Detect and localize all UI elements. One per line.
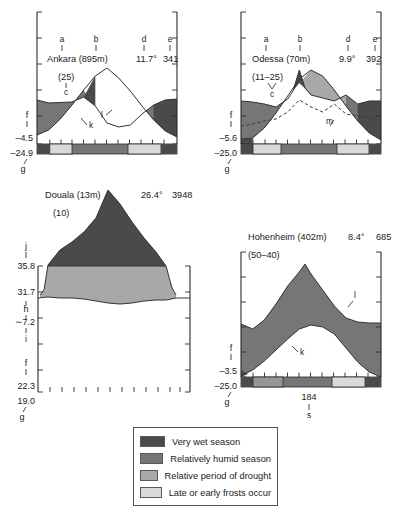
legend-swatch-relative-period-of-drought	[140, 470, 158, 481]
douala-right-ticks	[185, 266, 190, 392]
ankara-callout-l: l	[101, 110, 103, 120]
odessa-callout-m: m	[326, 116, 333, 126]
odessa-axis-key-f: f	[230, 110, 233, 120]
douala-station-label: Douala (13m)	[45, 190, 101, 200]
ankara-abs-min: –24.9	[10, 148, 33, 158]
legend-item-relative-period-of-drought: Relative period of drought	[140, 467, 271, 484]
hohenheim-chart: Hohenheim (402m) 8.4° 685 (50–40) k l f …	[208, 222, 408, 422]
ankara-station-label: Ankara (895m)	[47, 54, 108, 64]
odessa-callout-e: e	[373, 34, 378, 44]
odessa-abs-min: –25.0	[214, 148, 237, 158]
hohenheim-callout-k-leader	[292, 346, 298, 352]
ankara-chart: a b d e Ankara (895m) 11.7° 341 (25) c k…	[0, 0, 204, 170]
hohenheim-years: (50–40)	[248, 250, 280, 260]
hohenheim-axis-key-g: g	[224, 397, 229, 407]
odessa-callout-a: a	[264, 34, 269, 44]
douala-very-wet-area	[48, 190, 166, 266]
panel-odessa: a b d e Odessa (70m) 9.9° 392 (11–25) c …	[204, 0, 408, 170]
odessa-annual-precip: 392	[366, 54, 381, 64]
hohenheim-growing-days: 184	[301, 392, 316, 402]
hohenheim-axis-key-f: f	[230, 343, 233, 353]
ankara-years: (25)	[58, 72, 74, 82]
hohenheim-callout-l: l	[354, 290, 356, 300]
legend-swatch-very-wet-season	[140, 436, 165, 447]
ankara-mean-temp: 11.7°	[136, 54, 157, 64]
hohenheim-plot-area	[241, 264, 381, 377]
douala-temp-white	[38, 297, 176, 392]
ankara-callout-a: a	[60, 34, 65, 44]
odessa-callout-d: d	[346, 34, 351, 44]
legend-item-late-or-early-frosts-occur: Late or early frosts occur	[140, 484, 271, 501]
odessa-years: (11–25)	[252, 72, 283, 82]
douala-axis-key-j: j	[24, 241, 27, 251]
legend-label-very-wet-season: Very wet season	[172, 437, 240, 447]
climate-diagram-figure: a b d e Ankara (895m) 11.7° 341 (25) c k…	[0, 0, 408, 516]
legend-item-very-wet-season: Very wet season	[140, 433, 271, 450]
odessa-chart: a b d e Odessa (70m) 9.9° 392 (11–25) c …	[204, 0, 408, 170]
douala-axis-223: 22.3	[17, 381, 35, 391]
douala-axis-190: 19.0	[17, 396, 35, 406]
hohenheim-annual-precip: 685	[376, 232, 391, 242]
douala-axis-72: ∼7.2	[15, 317, 35, 327]
legend-item-relatively-humid-season: Relatively humid season	[140, 450, 271, 467]
hohenheim-station-label: Hohenheim (402m)	[248, 232, 327, 242]
legend-swatch-late-or-early-frosts-occur	[140, 487, 162, 498]
douala-plot-area	[38, 190, 176, 392]
douala-mean-temp: 26.4°	[141, 190, 163, 200]
hohenheim-abs-min: –25.0	[214, 381, 237, 391]
legend: Very wet season Relatively humid season …	[133, 427, 278, 506]
panel-hohenheim: Hohenheim (402m) 8.4° 685 (50–40) k l f …	[208, 222, 408, 422]
douala-axis-317: 31.7	[17, 287, 35, 297]
legend-swatch-relatively-humid-season	[140, 453, 163, 464]
ankara-callout-d: d	[142, 34, 147, 44]
hohenheim-humid-area	[241, 264, 381, 377]
panel-ankara: a b d e Ankara (895m) 11.7° 341 (25) c k…	[0, 0, 204, 170]
douala-axis-358: 35.8	[17, 261, 35, 271]
douala-chart: Douala (13m) 26.4° 3948 (10) j 35.8 31.7…	[0, 170, 230, 420]
hohenheim-mean-min: –3.5	[219, 366, 237, 376]
legend-label-relatively-humid-season: Relatively humid season	[170, 454, 271, 464]
hohenheim-axis-key-s: s	[307, 410, 311, 420]
odessa-callout-b: b	[298, 34, 303, 44]
ankara-axis-key-f: f	[26, 110, 29, 120]
odessa-station-label: Odessa (70m)	[252, 54, 310, 64]
hohenheim-season-bar	[241, 373, 381, 388]
douala-axis-key-i: i	[25, 334, 27, 344]
douala-years: (10)	[53, 208, 69, 218]
odessa-mean-min: –5.6	[219, 133, 237, 143]
douala-axis-key-f: f	[25, 358, 28, 368]
panel-douala: Douala (13m) 26.4° 3948 (10) j 35.8 31.7…	[0, 170, 230, 420]
odessa-mean-temp: 9.9°	[339, 54, 356, 64]
ankara-annual-precip: 341	[163, 54, 178, 64]
douala-axis-key-g: g	[19, 412, 24, 422]
hohenheim-callout-k: k	[300, 347, 305, 357]
ankara-callout-b: b	[94, 34, 99, 44]
ankara-callout-e: e	[168, 34, 173, 44]
legend-label-late-or-early-frosts-occur: Late or early frosts occur	[169, 488, 271, 498]
ankara-mean-min: –4.5	[15, 133, 33, 143]
ankara-callout-c: c	[64, 87, 68, 97]
legend-label-relative-period-of-drought: Relative period of drought	[165, 471, 271, 481]
hohenheim-mean-temp: 8.4°	[348, 232, 365, 242]
hohenheim-callout-l-leader	[348, 301, 353, 307]
odessa-callout-c: c	[270, 89, 274, 99]
douala-annual-precip: 3948	[172, 190, 192, 200]
